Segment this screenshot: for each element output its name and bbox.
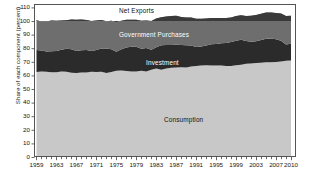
series-label-net-exports: Net Exports	[119, 8, 154, 14]
x-tick-label: 1959	[28, 162, 44, 168]
area-consumption	[36, 61, 291, 157]
y-tick-label: 60	[23, 72, 30, 78]
y-tick-label: 10	[23, 140, 30, 146]
y-tick-label: 20	[23, 127, 30, 133]
x-tick-label: 1963	[48, 162, 64, 168]
x-tick-label: 1979	[128, 162, 144, 168]
x-tick-label: 1975	[108, 162, 124, 168]
y-tick-label: 30	[23, 113, 30, 119]
x-tick-label: 1995	[208, 162, 224, 168]
x-tick-label: 2010	[283, 162, 299, 168]
y-tick-label: 40	[23, 99, 30, 105]
y-tick-label: 0	[27, 154, 30, 160]
y-tick-label: 90	[23, 31, 30, 37]
stacked-area-plot	[0, 0, 309, 179]
x-tick-label: 1983	[148, 162, 164, 168]
series-label-consumption: Consumption	[164, 117, 203, 123]
series-label-investment: Investment	[146, 60, 179, 66]
x-tick-label: 2007	[268, 162, 284, 168]
x-tick-label: 1987	[168, 162, 184, 168]
y-tick-label: 50	[23, 86, 30, 92]
series-label-government-purchases: Government Purchases	[119, 32, 189, 38]
area-net-exports	[36, 12, 291, 22]
y-tick-label: 70	[23, 59, 30, 65]
x-tick-label: 1991	[188, 162, 204, 168]
x-tick-label: 2003	[248, 162, 264, 168]
x-tick-label: 1999	[228, 162, 244, 168]
x-tick-label: 1971	[88, 162, 104, 168]
y-tick-label: 80	[23, 45, 30, 51]
y-tick-label: 100	[20, 18, 30, 24]
y-tick-label: 110	[20, 4, 30, 10]
x-tick-label: 1967	[68, 162, 84, 168]
